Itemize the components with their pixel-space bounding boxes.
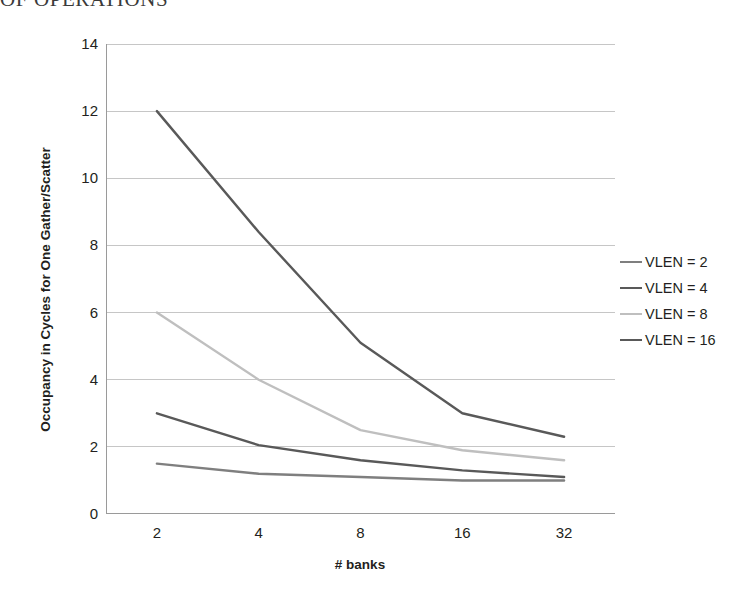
plot-svg — [106, 44, 615, 514]
legend-item[interactable]: VLEN = 16 — [620, 327, 751, 353]
y-axis-tick-label: 10 — [52, 170, 98, 185]
y-axis-tick-label: 4 — [52, 372, 98, 387]
legend-swatch-icon — [620, 313, 642, 316]
x-axis-tick-label: 2 — [117, 524, 197, 541]
plot-area — [106, 44, 615, 514]
x-axis-title: # banks — [100, 557, 620, 572]
chart-figure: Occupancy in Cycles for One Gather/Scatt… — [0, 0, 751, 607]
legend-item[interactable]: VLEN = 4 — [620, 275, 751, 301]
y-axis-title: Occupancy in Cycles for One Gather/Scatt… — [38, 100, 53, 480]
legend-swatch-icon — [620, 287, 642, 290]
y-axis-tick-label: 0 — [52, 506, 98, 521]
legend-item[interactable]: VLEN = 8 — [620, 301, 751, 327]
chart-legend: VLEN = 2VLEN = 4VLEN = 8VLEN = 16 — [620, 249, 751, 353]
x-axis-tick-label: 8 — [321, 524, 401, 541]
legend-item[interactable]: VLEN = 2 — [620, 249, 751, 275]
series-line-vlen-16 — [157, 111, 564, 437]
y-axis-tick-label: 12 — [52, 103, 98, 118]
legend-swatch-icon — [620, 339, 642, 342]
y-axis-tick-label: 8 — [52, 237, 98, 252]
legend-item-label: VLEN = 16 — [645, 332, 716, 348]
x-axis-tick-label: 32 — [524, 524, 604, 541]
series-line-vlen-8 — [157, 313, 564, 461]
legend-item-label: VLEN = 2 — [645, 254, 707, 270]
y-axis-tick-label: 6 — [52, 305, 98, 320]
x-axis-tick-label: 16 — [422, 524, 502, 541]
legend-item-label: VLEN = 8 — [645, 306, 707, 322]
y-axis-tick-label: 2 — [52, 439, 98, 454]
x-axis-tick-label: 4 — [219, 524, 299, 541]
legend-item-label: VLEN = 4 — [645, 280, 707, 296]
legend-swatch-icon — [620, 261, 642, 264]
y-axis-tick-label: 14 — [52, 36, 98, 51]
